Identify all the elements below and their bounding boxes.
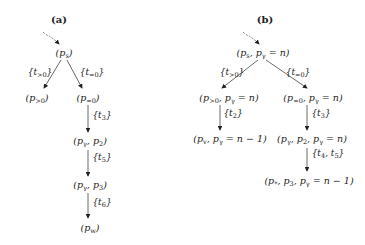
node-b-pstar: (p*, p3, pγ = n − 1) xyxy=(264,175,353,188)
node-a-ps: (ps) xyxy=(56,47,73,60)
node-b-eq0: (p=0, pγ = n) xyxy=(283,92,342,105)
edge-label-a-gt0: {t>0} xyxy=(28,67,53,79)
diagram-edges xyxy=(0,0,365,245)
edge-label-a-t6: {t6} xyxy=(92,197,111,209)
node-a-pgamma-p2: (pγ, p2) xyxy=(73,135,107,148)
node-b-pgamma-p2: (pγ, p2, pγ = n) xyxy=(277,133,347,146)
edge-label-b-gt0: {t>0} xyxy=(220,67,245,79)
edge-label-b-t3: {t3} xyxy=(311,108,330,120)
panel-b-title: (b) xyxy=(257,14,273,25)
edge-label-b-eq0: {t=0} xyxy=(286,67,311,79)
panel-a-title: (a) xyxy=(51,14,67,25)
edge-label-b-t2: {t2} xyxy=(223,108,242,120)
entry-arrow-b xyxy=(243,32,259,44)
node-b-pv: (pv, pγ = n − 1) xyxy=(193,133,266,146)
edge-label-a-t5: {t5} xyxy=(92,152,111,164)
edge-label-a-t3: {t3} xyxy=(92,110,111,122)
edge-label-b-t45: {t4, t5} xyxy=(312,148,345,160)
entry-arrow-a xyxy=(43,32,59,44)
node-a-peq0: (p=0) xyxy=(76,92,99,105)
node-a-pw: (pw) xyxy=(80,222,99,235)
node-a-pgamma-p3: (pγ, p3) xyxy=(73,179,107,192)
node-a-pgt0: (p>0) xyxy=(25,92,48,105)
edge-label-a-eq0: {t=0} xyxy=(80,67,105,79)
node-b-gt0: (p>0, pγ = n) xyxy=(199,92,258,105)
node-b-root: (ps, pγ = n) xyxy=(236,47,289,60)
